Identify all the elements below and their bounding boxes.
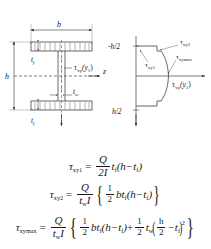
plot-x-axis-label: τxy(y1) — [172, 80, 191, 90]
cross-section-group: b h tf tf tw τxy(y1) z y — [5, 20, 107, 128]
tau-xy2-callout: τxy2 — [180, 38, 191, 47]
height-label: h — [5, 72, 9, 81]
eq3-half-fraction-2: 1 2 — [135, 217, 144, 237]
eq1-tail: tf(h−tf) — [112, 161, 143, 172]
eq3-inner-tail: −tf — [167, 222, 180, 233]
axis-label-top: -h/2 — [108, 42, 120, 51]
eq3-brace-open: { — [69, 214, 76, 240]
eq1-fraction: Q 2I — [96, 154, 109, 178]
eq2-equals: = — [66, 189, 72, 200]
eq2-brace-open: { — [96, 183, 103, 206]
axis-label-bottom: h/2 — [112, 107, 122, 116]
equation-tau-xy2: τxy2 = Q twI { 1 2 btf(h−tf) } — [0, 182, 211, 206]
flange-thickness-label: tf — [31, 55, 35, 65]
eq2-term: btf(h−tf) — [116, 189, 152, 200]
eq3-fraction: Q twI — [51, 215, 66, 239]
flange-thickness-label-bottom: tf — [31, 116, 35, 126]
eq2-half-fraction: 1 2 — [106, 184, 115, 204]
equations-panel: τxy1 = Q 2I tf(h−tf) τxy2 = Q twI { 1 2 … — [0, 126, 211, 249]
z-axis-label: z — [102, 67, 107, 76]
web-thickness-label: tw — [73, 87, 79, 97]
eq3-brace-close: } — [186, 214, 193, 240]
equation-tau-xy1: τxy1 = Q 2I tf(h−tf) — [0, 154, 211, 178]
eq3-half-fraction-1: 1 2 — [80, 217, 89, 237]
eq1-equals: = — [85, 161, 91, 172]
eq3-equals: = — [40, 222, 46, 233]
eq3-lhs: τxymax — [16, 222, 37, 233]
eq3-exponent: 2 — [182, 220, 185, 226]
eq2-denominator: twI — [77, 194, 92, 207]
eq3-denominator: twI — [51, 227, 66, 240]
tau-xymax-callout: τxymax — [176, 53, 192, 62]
stress-distribution-group: -h/2 h/2 y τxy1 τxy2 τxymax τxy(y1) — [108, 36, 205, 128]
eq2-brace-close: } — [153, 183, 160, 206]
top-flange-shear-arrows — [35, 43, 89, 51]
bottom-flange-shear-arrows — [35, 102, 89, 110]
eq1-numerator: Q — [97, 154, 109, 166]
eq3-term-1: btf(h−tf) — [91, 222, 127, 233]
tau2-leader — [160, 45, 178, 50]
figure-svg: b h tf tf tw τxy(y1) z y -h/ — [0, 0, 211, 128]
eq1-lhs: τxy1 — [69, 161, 82, 172]
eq2-numerator: Q — [79, 182, 91, 194]
eq2-lhs: τxy2 — [50, 189, 63, 200]
eq3-paren-open: ( — [153, 219, 156, 236]
figure-panel: b h tf tf tw τxy(y1) z y -h/ — [0, 0, 211, 128]
equation-tau-xymax: τxymax = Q twI { 1 2 btf(h−tf) + 1 2 tw … — [0, 214, 211, 240]
tau-xy1-callout: τxy1 — [145, 61, 156, 70]
shear-stress-callout-label: τxy(y1) — [74, 63, 93, 73]
eq3-numerator: Q — [52, 215, 64, 227]
eq2-fraction: Q twI — [77, 182, 92, 206]
eq1-denominator: 2I — [96, 166, 109, 179]
taumax-leader — [168, 60, 176, 74]
eq3-plus: + — [127, 222, 133, 233]
width-label: b — [57, 20, 61, 29]
eq3-inner-fraction: h 2 — [157, 217, 166, 237]
